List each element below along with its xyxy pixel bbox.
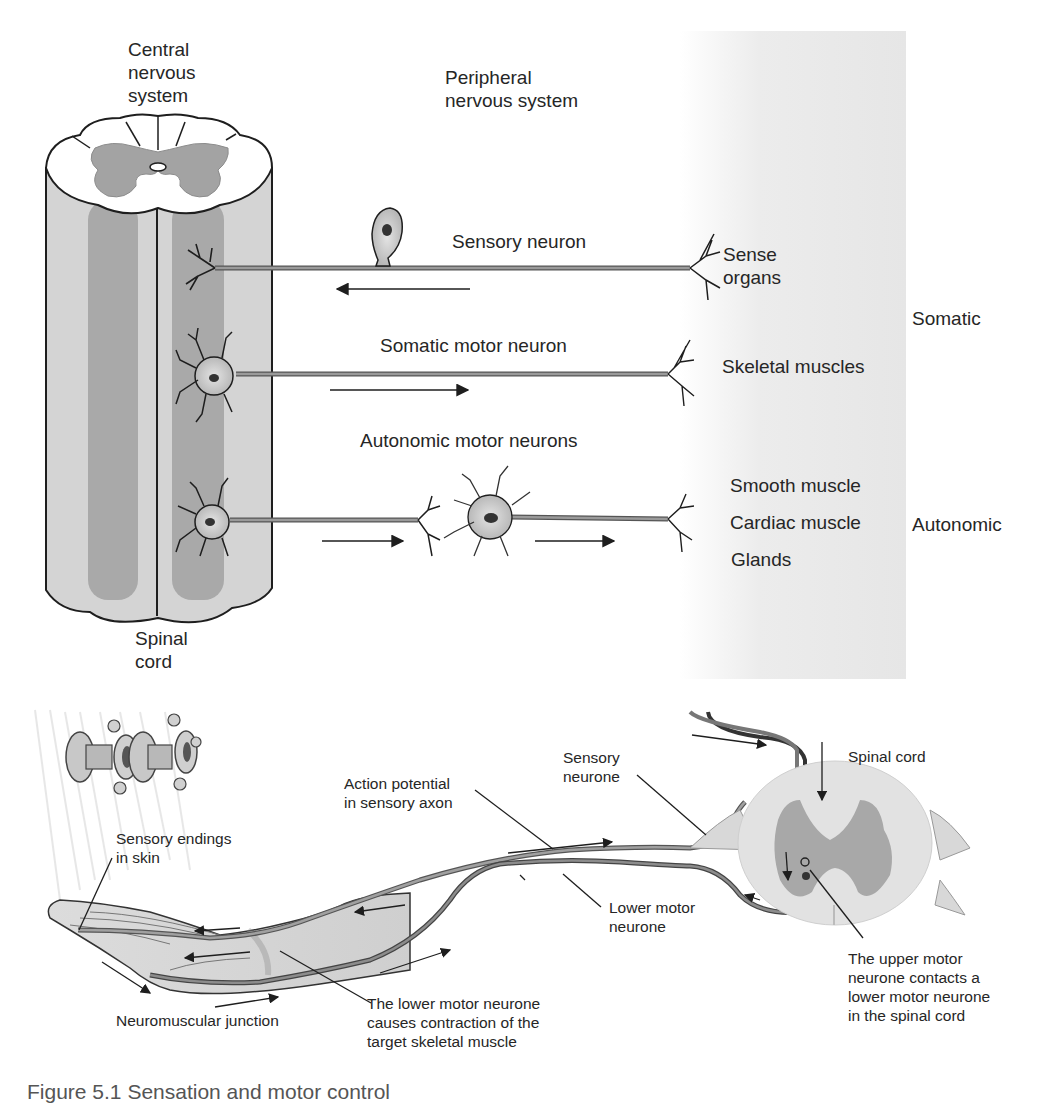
sensory-endings-label: Sensory endings in skin <box>116 829 231 867</box>
spinal-cord-bottom-label: Spinal cord <box>848 747 926 766</box>
figure-caption: Figure 5.1 Sensation and motor control <box>27 1080 390 1104</box>
upper-motor-contact-label: The upper motor neurone contacts a lower… <box>848 949 990 1025</box>
arm-and-hand <box>48 893 410 994</box>
spinal-cord-cross-section <box>690 761 970 925</box>
lower-motor-contraction-label: The lower motor neurone causes contracti… <box>367 994 540 1051</box>
sensory-neurone-label: Sensory neurone <box>563 748 620 786</box>
action-potential-label: Action potential in sensory axon <box>344 774 453 812</box>
neuromuscular-junction-label: Neuromuscular junction <box>116 1011 279 1030</box>
water-streaks <box>35 710 190 900</box>
lower-motor-neurone-label: Lower motor neurone <box>609 898 695 936</box>
